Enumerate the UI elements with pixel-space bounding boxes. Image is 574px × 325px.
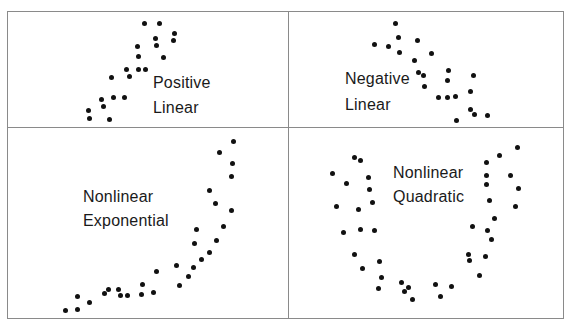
data-point: [86, 108, 91, 113]
data-point: [412, 58, 417, 63]
data-point: [422, 84, 427, 89]
data-point: [157, 21, 162, 26]
data-point: [344, 181, 349, 186]
data-point: [477, 273, 482, 278]
data-point: [352, 155, 357, 160]
data-point: [231, 139, 236, 144]
data-point: [508, 173, 513, 178]
data-point: [229, 208, 234, 213]
data-point: [172, 31, 177, 36]
data-point: [489, 237, 494, 242]
data-point: [75, 294, 80, 299]
data-point: [75, 307, 80, 312]
data-point: [199, 257, 204, 262]
data-point: [116, 287, 121, 292]
data-point: [191, 265, 196, 270]
data-point: [140, 282, 145, 287]
data-point: [377, 259, 382, 264]
data-point: [63, 308, 68, 313]
data-point: [429, 51, 434, 56]
data-point: [436, 95, 441, 100]
data-point: [468, 89, 473, 94]
label-line2: Quadratic: [393, 184, 464, 210]
label-line2: Exponential: [83, 208, 169, 234]
vertical-divider: [288, 11, 289, 319]
data-point: [136, 67, 141, 72]
data-point: [87, 116, 92, 121]
data-point: [396, 35, 401, 40]
data-point: [497, 153, 502, 158]
horizontal-divider: [7, 127, 564, 128]
data-point: [334, 204, 339, 209]
data-point: [446, 68, 451, 73]
data-point: [421, 73, 426, 78]
label-line1: Nonlinear: [393, 160, 463, 186]
data-point: [154, 269, 159, 274]
data-point: [171, 38, 176, 43]
data-point: [153, 36, 158, 41]
data-point: [433, 282, 438, 287]
data-point: [143, 67, 148, 72]
data-point: [468, 107, 473, 112]
data-point: [453, 94, 458, 99]
data-point: [356, 207, 361, 212]
data-point: [230, 161, 235, 166]
data-point: [186, 274, 191, 279]
data-point: [101, 104, 106, 109]
data-point: [229, 174, 234, 179]
data-point: [136, 54, 141, 59]
data-point: [370, 200, 375, 205]
data-point: [214, 238, 219, 243]
data-point: [492, 216, 497, 221]
data-point: [372, 42, 377, 47]
data-point: [124, 67, 129, 72]
data-point: [483, 254, 488, 259]
data-point: [111, 95, 116, 100]
data-point: [376, 286, 381, 291]
correlation-types-diagram: Positive Linear Negative Linear Nonlinea…: [0, 0, 574, 325]
data-point: [487, 198, 492, 203]
data-point: [513, 204, 518, 209]
data-point: [454, 118, 459, 123]
data-point: [402, 289, 407, 294]
data-point: [372, 228, 377, 233]
data-point: [192, 241, 197, 246]
data-point: [367, 187, 372, 192]
data-point: [416, 70, 421, 75]
data-point: [466, 252, 471, 257]
data-point: [470, 224, 475, 229]
data-point: [438, 294, 443, 299]
data-point: [360, 266, 365, 271]
data-point: [399, 280, 404, 285]
data-point: [109, 75, 114, 80]
data-point: [484, 160, 489, 165]
data-point: [445, 78, 450, 83]
data-point: [194, 227, 199, 232]
data-point: [217, 150, 222, 155]
data-point: [99, 97, 104, 102]
data-point: [415, 38, 420, 43]
data-point: [213, 201, 218, 206]
data-point: [352, 252, 357, 257]
data-point: [142, 21, 147, 26]
data-point: [467, 258, 472, 263]
label-line2: Linear: [345, 92, 391, 118]
data-point: [386, 44, 391, 49]
data-point: [410, 297, 415, 302]
data-point: [485, 228, 490, 233]
data-point: [449, 284, 454, 289]
data-point: [207, 250, 212, 255]
data-point: [151, 290, 156, 295]
data-point: [393, 21, 398, 26]
data-point: [484, 173, 489, 178]
data-point: [135, 44, 140, 49]
data-point: [516, 186, 521, 191]
data-point: [358, 227, 363, 232]
label-line1: Nonlinear: [83, 184, 153, 210]
data-point: [515, 145, 520, 150]
data-point: [174, 263, 179, 268]
data-point: [161, 55, 166, 60]
data-point: [118, 293, 123, 298]
label-line1: Negative: [345, 66, 410, 92]
data-point: [485, 113, 490, 118]
